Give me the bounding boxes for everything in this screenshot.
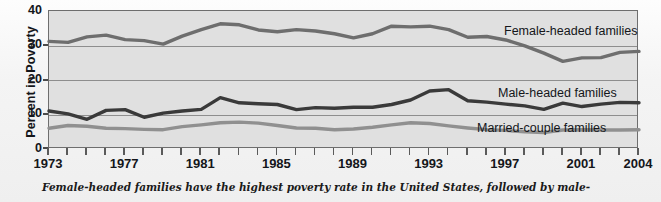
x-tick-1981 bbox=[199, 148, 201, 155]
x-tick-1976 bbox=[104, 148, 106, 155]
x-tick-label-1981: 1981 bbox=[186, 156, 215, 171]
x-tick-2002 bbox=[599, 148, 601, 155]
x-tick-1985 bbox=[276, 148, 278, 155]
x-axis: 197319771981198519891993199720012004 bbox=[48, 148, 638, 174]
x-tick-1977 bbox=[123, 148, 125, 155]
x-tick-1992 bbox=[409, 148, 411, 155]
x-tick-1995 bbox=[466, 148, 468, 155]
x-tick-label-1985: 1985 bbox=[262, 156, 291, 171]
x-tick-2003 bbox=[618, 148, 620, 155]
figure-caption: Female-headed families have the highest … bbox=[42, 181, 642, 194]
x-tick-1975 bbox=[85, 148, 87, 155]
x-tick-1998 bbox=[523, 148, 525, 155]
x-tick-1978 bbox=[142, 148, 144, 155]
x-tick-2000 bbox=[561, 148, 563, 155]
x-tick-2004 bbox=[637, 148, 639, 155]
x-tick-label-2001: 2001 bbox=[566, 156, 595, 171]
caption-line-1: Female-headed families have the highest … bbox=[42, 181, 642, 194]
x-tick-1979 bbox=[161, 148, 163, 155]
x-tick-1989 bbox=[352, 148, 354, 155]
x-tick-label-1993: 1993 bbox=[414, 156, 443, 171]
x-tick-label-1997: 1997 bbox=[490, 156, 519, 171]
x-tick-1996 bbox=[485, 148, 487, 155]
series-label-female-headed: Female-headed families bbox=[504, 24, 637, 38]
x-tick-1980 bbox=[180, 148, 182, 155]
x-tick-2001 bbox=[580, 148, 582, 155]
x-tick-1984 bbox=[257, 148, 259, 155]
x-tick-1987 bbox=[314, 148, 316, 155]
x-tick-1997 bbox=[504, 148, 506, 155]
x-tick-label-1977: 1977 bbox=[110, 156, 139, 171]
series-label-married-couple: Married-couple families bbox=[477, 121, 606, 135]
x-tick-1999 bbox=[542, 148, 544, 155]
y-tick-label-30: 30 bbox=[12, 37, 42, 51]
x-tick-label-2004: 2004 bbox=[624, 156, 653, 171]
y-tick-label-20: 20 bbox=[12, 72, 42, 86]
poverty-rate-line-chart: Percent in Poverty 40 30 20 10 0 Female-… bbox=[0, 0, 661, 202]
y-tick-label-40: 40 bbox=[12, 3, 42, 17]
x-tick-1974 bbox=[66, 148, 68, 155]
plot-area: Female-headed families Male-headed famil… bbox=[48, 10, 638, 148]
x-tick-1973 bbox=[47, 148, 49, 155]
x-tick-1991 bbox=[390, 148, 392, 155]
x-tick-1990 bbox=[371, 148, 373, 155]
x-tick-label-1973: 1973 bbox=[34, 156, 63, 171]
x-tick-1982 bbox=[218, 148, 220, 155]
y-tick-label-0: 0 bbox=[12, 141, 42, 155]
x-tick-1993 bbox=[428, 148, 430, 155]
x-tick-1986 bbox=[295, 148, 297, 155]
x-tick-1988 bbox=[333, 148, 335, 155]
series-label-male-headed: Male-headed families bbox=[498, 86, 617, 100]
y-tick-label-10: 10 bbox=[12, 106, 42, 120]
x-tick-1994 bbox=[447, 148, 449, 155]
x-tick-label-1989: 1989 bbox=[338, 156, 367, 171]
x-tick-1983 bbox=[238, 148, 240, 155]
